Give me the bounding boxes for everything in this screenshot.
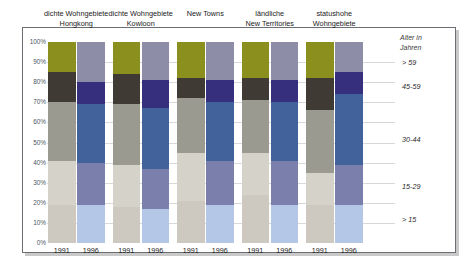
legend-title-line1: Alter in [400,33,454,43]
bar-segment[interactable] [242,100,270,152]
y-axis-tick-label: 80% [22,78,46,86]
bar-stack[interactable] [242,42,270,243]
y-axis-tick-label: 50% [22,139,46,147]
bar-segment[interactable] [177,153,205,201]
bar-segment[interactable] [77,82,105,104]
bar-stack[interactable] [271,42,299,243]
bar-segment[interactable] [48,102,76,160]
bar-stack[interactable] [335,42,363,243]
y-axis-tick-label: 20% [22,199,46,207]
bar-segment[interactable] [271,205,299,243]
x-axis-tick-label: 1991 [177,246,205,255]
chart-root: 100%90%80%70%60%50%40%30%20%10%0% Alter … [0,0,474,276]
y-axis-tick-label: 0% [22,239,46,247]
legend-item-label: 15-29 [402,182,420,191]
bar-segment[interactable] [142,209,170,243]
bar-segment[interactable] [335,94,363,164]
group-header-line1: dichte Wohngebiete [104,9,179,19]
bar-segment[interactable] [335,72,363,94]
bar-stack[interactable] [142,42,170,243]
group-header-line2: Kowloon [104,19,179,29]
bar-segment[interactable] [142,108,170,168]
bar-segment[interactable] [306,78,334,110]
bar-segment[interactable] [242,195,270,243]
plot-area [47,42,395,243]
bar-segment[interactable] [271,102,299,160]
bar-segment[interactable] [177,201,205,243]
legend-item-label: > 15 [402,215,416,224]
bar-segment[interactable] [242,42,270,78]
group-header: dichte WohngebieteKowloon [104,9,179,28]
x-axis-tick-label: 1991 [306,246,334,255]
x-axis-tick-label: 1996 [77,246,105,255]
bar-segment[interactable] [177,42,205,78]
legend-item-label: 45-59 [402,82,420,91]
bar-segment[interactable] [306,173,334,205]
bar-stack[interactable] [113,42,141,243]
x-axis-tick-label: 1991 [113,246,141,255]
bar-segment[interactable] [48,161,76,205]
bar-segment[interactable] [113,42,141,74]
group-header: New Towns [168,9,243,19]
x-axis-tick-label: 1991 [242,246,270,255]
bar-segment[interactable] [306,42,334,78]
bar-stack[interactable] [206,42,234,243]
bar-segment[interactable] [206,205,234,243]
y-axis-tick-label: 70% [22,98,46,106]
bar-segment[interactable] [242,78,270,100]
legend-item-label: > 59 [402,58,416,67]
group-header-line1: ländliche [233,9,308,19]
y-axis-tick-label: 100% [22,38,46,46]
bar-segment[interactable] [306,205,334,243]
bar-segment[interactable] [306,110,334,172]
bar-segment[interactable] [177,98,205,152]
y-axis-tick-label: 10% [22,219,46,227]
group-header-line1: New Towns [168,9,243,19]
bar-segment[interactable] [142,169,170,209]
legend-item-label: 30-44 [402,135,420,144]
bar-segment[interactable] [142,42,170,80]
bar-segment[interactable] [113,74,141,104]
bar-segment[interactable] [177,78,205,98]
x-axis-tick-label: 1996 [271,246,299,255]
y-axis-tick-label: 30% [22,179,46,187]
bar-stack[interactable] [48,42,76,243]
bar-stack[interactable] [177,42,205,243]
bar-segment[interactable] [335,165,363,205]
group-header-line1: statushohe [297,9,372,19]
group-header-line2: Wohngebiete [297,19,372,29]
bar-segment[interactable] [77,163,105,205]
bar-segment[interactable] [113,104,141,164]
bar-stack[interactable] [77,42,105,243]
bar-segment[interactable] [113,207,141,243]
bar-segment[interactable] [77,104,105,162]
group-header: dichte WohngebieteHongkong [39,9,114,28]
group-header-line2: Hongkong [39,19,114,29]
bar-segment[interactable] [242,153,270,195]
bar-segment[interactable] [271,80,299,102]
legend: Alter in Jahren > 5945-5930-4415-29> 15 [398,30,456,245]
bar-segment[interactable] [271,161,299,205]
group-header: ländlicheNew Territories [233,9,308,28]
y-axis: 100%90%80%70%60%50%40%30%20%10%0% [22,36,46,251]
bar-segment[interactable] [206,42,234,80]
bar-segment[interactable] [113,165,141,207]
group-header-line1: dichte Wohngebiete [39,9,114,19]
bar-segment[interactable] [206,80,234,102]
bar-segment[interactable] [142,80,170,108]
bar-segment[interactable] [48,205,76,243]
x-axis-tick-label: 1996 [206,246,234,255]
bar-segment[interactable] [335,42,363,72]
bar-segment[interactable] [335,205,363,243]
bar-stack[interactable] [306,42,334,243]
bar-segment[interactable] [48,42,76,72]
legend-title-line2: Jahren [400,43,454,53]
bar-segment[interactable] [271,42,299,80]
x-axis-tick-label: 1996 [335,246,363,255]
bar-segment[interactable] [206,102,234,160]
bar-segment[interactable] [77,42,105,82]
bar-segment[interactable] [48,72,76,102]
bar-segment[interactable] [77,205,105,243]
bar-segment[interactable] [206,161,234,205]
group-header: statushoheWohngebiete [297,9,372,28]
